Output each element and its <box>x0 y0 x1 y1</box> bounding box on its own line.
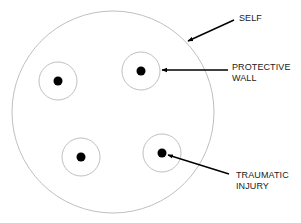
inner-unit <box>143 134 181 172</box>
traumatic-injury-dot <box>158 149 167 158</box>
traumatic-injury-label-line2: INJURY <box>236 181 289 192</box>
protective-wall-label: PROTECTIVE WALL <box>232 62 291 84</box>
traumatic-injury-dot <box>77 153 86 162</box>
traumatic-injury-label-line1: TRAUMATIC <box>236 170 289 181</box>
protective-wall-label-line1: PROTECTIVE <box>232 62 291 73</box>
traumatic-injury-label: TRAUMATIC INJURY <box>236 170 289 192</box>
traumatic-injury-dot <box>137 67 146 76</box>
inner-unit <box>39 62 77 100</box>
self-outline <box>12 11 214 213</box>
protective-wall-label-line2: WALL <box>232 73 291 84</box>
arrows <box>162 20 234 174</box>
self-label-line1: SELF <box>239 13 262 24</box>
inner-units <box>39 52 181 176</box>
traumatic-injury-dot <box>54 77 63 86</box>
self-circle <box>12 11 214 213</box>
inner-unit <box>122 52 160 90</box>
self-arrow-icon <box>188 20 234 41</box>
inner-unit <box>62 138 100 176</box>
self-label: SELF <box>239 13 262 24</box>
